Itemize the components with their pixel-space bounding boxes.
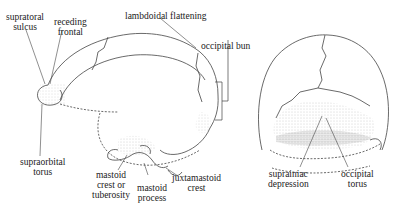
label-occipital-torus: occipital torus <box>341 169 374 189</box>
label-line: occipital <box>341 169 374 179</box>
label-line: mastoid <box>92 170 130 180</box>
label-mastoid-crest: mastoid crest or tuberosity <box>92 170 130 200</box>
label-supratoral-sulcus: supratoral sulcus <box>6 12 44 32</box>
label-line: sulcus <box>6 22 44 32</box>
occipital-shading <box>196 112 211 133</box>
label-occipital-bun: occipital bun <box>201 41 250 51</box>
label-line: tuberosity <box>92 190 130 200</box>
label-line: depression <box>268 179 309 189</box>
label-line: receding <box>54 17 87 27</box>
label-lambdoidal-flattening: lambdoidal flattening <box>125 11 207 21</box>
label-mastoid-process: mastoid process <box>137 183 167 203</box>
label-line: crest or <box>92 180 130 190</box>
label-line: torus <box>341 179 374 189</box>
leader-lines <box>26 18 348 176</box>
label-line: process <box>137 193 167 203</box>
label-line: supratoral <box>6 12 44 22</box>
label-suprainiac-depression: suprainiac depression <box>268 169 309 189</box>
label-line: crest <box>172 183 221 193</box>
occipital-bun-bracket <box>215 40 228 120</box>
label-line: juxtamastoid <box>172 173 221 183</box>
label-line: supraorbital <box>20 157 65 167</box>
label-line: suprainiac <box>268 169 309 179</box>
label-juxtamastoid-crest: juxtamastoid crest <box>172 173 221 193</box>
label-line: mastoid <box>137 183 167 193</box>
label-receding-frontal: receding frontal <box>54 17 87 37</box>
label-line: frontal <box>54 27 87 37</box>
label-line: torus <box>20 167 65 177</box>
supraorbital-shading <box>40 84 66 106</box>
label-supraorbital-torus: supraorbital torus <box>20 157 65 177</box>
